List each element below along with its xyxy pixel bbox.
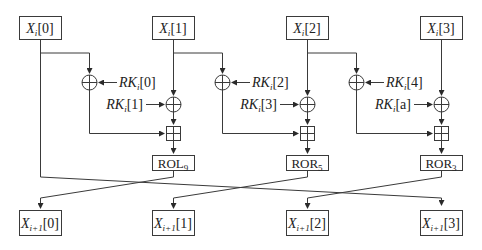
rotation-box-ror5: ROR5 (287, 156, 329, 174)
wire-ror5-to-out1 (174, 170, 308, 208)
output-box-x1: Xi+1[1] (153, 211, 195, 236)
round-key-label-rk3: RKi[3] (239, 97, 277, 114)
wire-x0-to-out3 (41, 40, 442, 206)
wire-rol-to-out0 (41, 170, 174, 208)
round-key-label-rka: RKi[a] (374, 97, 411, 114)
round-key-label-rk4: RKi[4] (385, 75, 423, 92)
wire-x0-to-xor0 (41, 53, 90, 73)
modular-add-icon (301, 127, 315, 141)
modular-add-icon (167, 127, 181, 141)
round-key-label-rk2: RKi[2] (251, 75, 289, 92)
input-box-x2: Xi[2] (287, 17, 329, 40)
xor-icon (349, 75, 364, 90)
svg-text:Xi[1]: Xi[1] (158, 21, 186, 38)
rotation-box-rol9: ROL9 (153, 156, 195, 174)
wire-x2-to-xor4 (308, 53, 357, 73)
round-key-label-rk0: RKi[0] (118, 75, 156, 92)
svg-text:Xi[2]: Xi[2] (292, 21, 320, 38)
wire-ror3-to-out2 (308, 170, 442, 208)
output-box-x0: Xi+1[0] (20, 211, 62, 236)
svg-text:Xi[3]: Xi[3] (426, 21, 454, 38)
xor-icon (82, 75, 97, 90)
xor-icon (166, 97, 181, 112)
output-box-x2: Xi+1[2] (287, 211, 329, 236)
output-box-x3: Xi+1[3] (421, 211, 463, 236)
modular-add-icon (435, 127, 449, 141)
svg-text:Xi[0]: Xi[0] (25, 21, 53, 38)
rotation-box-ror3: ROR3 (421, 156, 463, 174)
xor-icon (300, 97, 315, 112)
input-box-x0: Xi[0] (20, 17, 62, 40)
cipher-round-diagram: Xi[0] Xi[1] Xi[2] Xi[3] (0, 0, 482, 250)
input-box-x1: Xi[1] (153, 17, 195, 40)
round-key-label-rk1: RKi[1] (105, 97, 143, 114)
xor-icon (434, 97, 449, 112)
wires (41, 40, 442, 209)
input-box-x3: Xi[3] (421, 17, 463, 40)
xor-icon (215, 75, 230, 90)
wire-x1-to-xor2 (174, 53, 223, 73)
